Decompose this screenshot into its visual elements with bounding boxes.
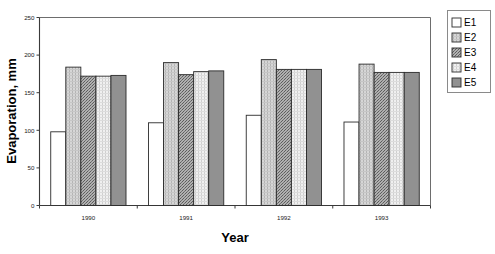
bar-e1-1991 (148, 123, 163, 206)
x-tick-label-1991: 1991 (179, 214, 193, 221)
x-axis-category-ticks: 1990199119921993 (40, 206, 431, 221)
bar-e3-1990 (81, 76, 96, 205)
legend-label-e2: E2 (464, 32, 477, 43)
y-axis-title: Evaporation, mm (4, 58, 19, 163)
bar-e4-1992 (291, 69, 306, 205)
y-tick-label: 100 (24, 127, 35, 134)
y-tick-label: 200 (24, 51, 35, 58)
y-tick-label: 50 (28, 164, 35, 171)
bar-e4-1993 (389, 72, 404, 205)
x-axis-title: Year (221, 230, 248, 245)
legend: E1E2E3E4E5 (448, 11, 491, 93)
legend-label-e1: E1 (464, 17, 477, 28)
chart-canvas: 050100150200250 1990199119921993 Evapora… (0, 0, 495, 254)
legend-label-e3: E3 (464, 47, 477, 58)
bar-e5-1993 (404, 72, 419, 205)
legend-swatch-e2 (452, 33, 461, 42)
bars-layer (51, 60, 420, 206)
legend-label-e5: E5 (464, 77, 477, 88)
y-tick-label: 250 (24, 14, 35, 21)
bar-e1-1990 (51, 132, 66, 206)
x-tick-label-1993: 1993 (375, 214, 389, 221)
legend-swatch-e5 (452, 78, 461, 87)
evaporation-bar-chart: 050100150200250 1990199119921993 Evapora… (0, 0, 495, 254)
x-tick-label-1992: 1992 (277, 214, 291, 221)
bar-e3-1991 (179, 75, 194, 206)
bar-e3-1992 (276, 69, 291, 205)
bar-e1-1992 (246, 115, 261, 205)
bar-e4-1990 (96, 76, 111, 205)
bar-e5-1992 (306, 69, 321, 205)
bar-e1-1993 (344, 122, 359, 205)
bar-e5-1990 (111, 75, 126, 205)
y-axis-ticks: 050100150200250 (24, 14, 39, 209)
bar-e4-1991 (194, 72, 209, 206)
bar-e5-1991 (209, 71, 224, 206)
x-tick-label-1990: 1990 (81, 214, 95, 221)
legend-swatch-e4 (452, 63, 461, 72)
bar-e2-1991 (164, 63, 179, 206)
legend-label-e4: E4 (464, 62, 477, 73)
legend-swatch-e1 (452, 18, 461, 27)
y-tick-label: 150 (24, 89, 35, 96)
bar-e2-1993 (359, 64, 374, 205)
bar-e2-1992 (261, 60, 276, 206)
bar-e3-1993 (374, 72, 389, 205)
legend-swatch-e3 (452, 48, 461, 57)
y-tick-label: 0 (31, 202, 35, 209)
bar-e2-1990 (66, 67, 81, 205)
